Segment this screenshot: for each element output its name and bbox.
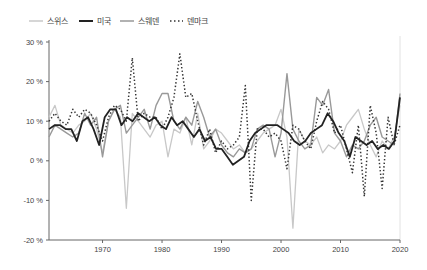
series-line-switzerland (49, 105, 400, 228)
y-tick-label: -20 % (23, 236, 43, 245)
legend-item-denmark: 덴마크 (170, 17, 208, 26)
legend-item-sweden: 스웨덴 (120, 16, 159, 26)
y-axis: 30 %20 %10 %0 %-10 %-20 % (23, 38, 49, 245)
legend-label-switzerland: 스위스 (47, 17, 68, 26)
legend: 스위스 미국 스웨덴 덴마크 (29, 16, 208, 26)
y-tick-label: 10 % (26, 117, 43, 126)
series-group (49, 54, 400, 228)
line-chart: 스위스 미국 스웨덴 덴마크 30 %20 %10 %0 %-10 %-20 %… (0, 0, 427, 270)
y-tick-label: 0 % (30, 156, 43, 165)
legend-item-switzerland: 스위스 (29, 17, 68, 26)
legend-label-denmark: 덴마크 (187, 17, 208, 26)
legend-label-usa: 미국 (97, 17, 111, 26)
y-tick-label: -10 % (23, 196, 43, 205)
y-tick-label: 30 % (26, 38, 43, 47)
x-tick-label: 1990 (213, 245, 230, 254)
series-line-sweden (49, 74, 400, 157)
series-line-denmark (49, 54, 400, 201)
x-tick-label: 2000 (273, 245, 290, 254)
legend-item-usa: 미국 (79, 17, 111, 26)
x-tick-label: 2010 (332, 245, 349, 254)
legend-label-sweden: 스웨덴 (138, 16, 159, 26)
x-tick-label: 1970 (94, 245, 111, 254)
x-tick-label: 1980 (154, 245, 171, 254)
x-axis: 197019801990200020102020 (49, 240, 408, 254)
x-tick-label: 2020 (392, 245, 409, 254)
y-tick-label: 20 % (26, 77, 43, 86)
